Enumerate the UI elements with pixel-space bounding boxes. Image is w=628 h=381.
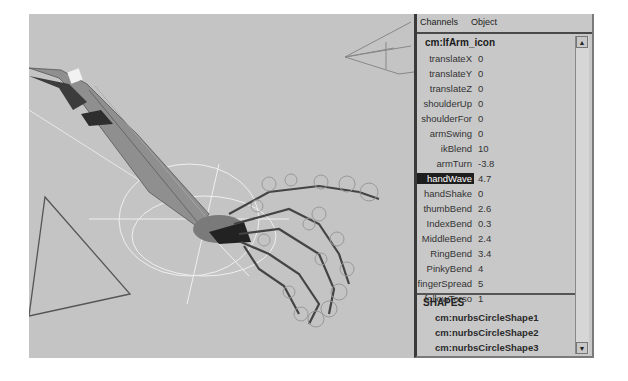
- channel-row[interactable]: translateZ0: [419, 82, 575, 96]
- channel-row[interactable]: ikBlend10: [419, 142, 575, 156]
- channel-row[interactable]: shoulderUp0: [419, 97, 575, 111]
- channel-row[interactable]: RingBend3.4: [419, 247, 575, 261]
- channel-list: cm:lfArm_icon translateX0 translateY0 tr…: [419, 36, 575, 294]
- channel-row[interactable]: fingerSpread5: [419, 277, 575, 291]
- menu-object[interactable]: Object: [471, 17, 497, 27]
- plane-outline-icon: [29, 197, 130, 316]
- scroll-down-arrow-icon[interactable]: ▼: [576, 342, 588, 354]
- shapes-header: SHAPES: [423, 297, 464, 308]
- rig-scene: [29, 14, 414, 358]
- menu-channels[interactable]: Channels: [420, 17, 458, 27]
- channel-row[interactable]: MiddleBend2.4: [419, 232, 575, 246]
- channel-row-selected[interactable]: handWave4.7: [419, 172, 575, 186]
- channel-row[interactable]: IndexBend0.3: [419, 217, 575, 231]
- channel-row[interactable]: shoulderFor0: [419, 112, 575, 126]
- channel-box-menubar: Channels Object: [417, 14, 592, 34]
- shape-item[interactable]: cm:nurbsCircleShape2: [435, 327, 538, 338]
- channel-row[interactable]: armSwing0: [419, 127, 575, 141]
- channel-row[interactable]: translateX0: [419, 52, 575, 66]
- node-name[interactable]: cm:lfArm_icon: [425, 37, 495, 48]
- channel-row[interactable]: PinkyBend4: [419, 262, 575, 276]
- arm-rig: [29, 68, 209, 228]
- scroll-up-arrow-icon[interactable]: ▲: [576, 36, 588, 48]
- channel-row[interactable]: handShake0: [419, 187, 575, 201]
- channel-row[interactable]: armTurn-3.8: [419, 157, 575, 171]
- shape-item[interactable]: cm:nurbsCircleShape3: [435, 342, 538, 353]
- channel-box: Channels Object cm:lfArm_icon translateX…: [414, 14, 594, 358]
- section-divider: [417, 293, 575, 295]
- camera-cone-icon: [345, 22, 414, 74]
- channel-row[interactable]: thumbBend2.6: [419, 202, 575, 216]
- 3d-viewport[interactable]: [29, 14, 414, 358]
- channel-box-scrollbar[interactable]: ▲ ▼: [575, 36, 589, 354]
- shape-item[interactable]: cm:nurbsCircleShape1: [435, 312, 538, 323]
- channel-row[interactable]: translateY0: [419, 67, 575, 81]
